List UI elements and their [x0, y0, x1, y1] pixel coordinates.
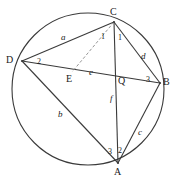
vertex-label-e: E	[66, 74, 72, 84]
vertex-label-c: C	[110, 7, 117, 17]
diagonal-C-A	[114, 22, 118, 163]
side-label-a: a	[61, 33, 66, 42]
circumscribed-circle	[12, 13, 164, 165]
angle-label-A3: 3	[108, 148, 112, 156]
segment-label-e: e	[89, 68, 93, 77]
vertex-dot-d	[21, 60, 23, 62]
geometry-figure: CDBAEQabcdef112332	[0, 0, 173, 180]
vertex-label-a: A	[114, 167, 121, 177]
vertex-dot-b	[159, 82, 161, 84]
vertex-label-b: B	[163, 77, 170, 87]
angle-label-C1-left: 1	[101, 33, 105, 41]
vertex-dot-c	[113, 21, 115, 23]
vertex-dot-a	[117, 162, 119, 164]
edge-B-A	[118, 83, 160, 163]
angle-label-B3: 3	[146, 76, 150, 84]
side-label-b: b	[58, 110, 63, 119]
side-label-c: c	[138, 128, 142, 137]
cevian-C-E	[72, 22, 114, 72]
side-label-d: d	[141, 52, 146, 61]
edge-D-C	[22, 22, 114, 61]
angle-label-D2: 2	[37, 58, 41, 66]
edge-group	[22, 22, 160, 163]
segment-label-f: f	[110, 94, 113, 103]
angle-label-A2: 2	[118, 147, 122, 155]
figure-canvas	[0, 0, 173, 180]
vertex-label-q: Q	[118, 76, 125, 86]
vertex-label-d: D	[6, 55, 13, 65]
angle-label-C1-right: 1	[118, 34, 122, 42]
vertex-dot-group	[21, 21, 161, 164]
